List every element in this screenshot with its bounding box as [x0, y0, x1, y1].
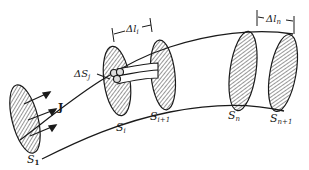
cross-section-sn — [225, 30, 262, 113]
label-delta-sj: ΔSj — [73, 68, 91, 81]
label-s1: S1 — [27, 153, 40, 167]
label-sn1: Sn+1 — [270, 112, 292, 126]
label-delta-ln: Δln — [265, 13, 281, 26]
label-si: Si — [116, 121, 126, 135]
label-delta-li: Δli — [125, 23, 139, 36]
label-j: J — [57, 101, 63, 114]
cross-section-s1 — [4, 82, 46, 156]
current-tube-diagram: J ΔSj Δli Δln S1 Si Si+1 Sn Sn+1 — [0, 0, 309, 170]
cross-section-sn1 — [263, 32, 302, 113]
